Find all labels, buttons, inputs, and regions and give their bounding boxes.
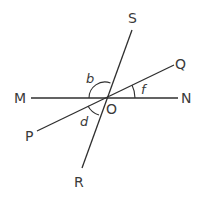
label-s: S <box>128 10 137 26</box>
angle-f-arc <box>132 85 135 98</box>
angle-label-f: f <box>141 82 148 97</box>
label-o: O <box>106 101 117 117</box>
angle-label-b: b <box>86 71 94 86</box>
intersecting-lines-diagram: M N S R Q P O b f d <box>0 0 201 199</box>
label-p: P <box>25 128 33 144</box>
label-q: Q <box>175 56 186 72</box>
angle-d-arc <box>88 106 99 115</box>
label-r: R <box>74 174 84 190</box>
angle-label-d: d <box>80 114 89 129</box>
line-sr <box>82 30 132 168</box>
label-m: M <box>14 90 26 106</box>
label-n: N <box>181 90 191 106</box>
